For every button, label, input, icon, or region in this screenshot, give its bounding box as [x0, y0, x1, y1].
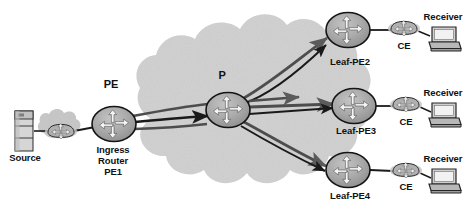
- receiver4-workstation-icon: [429, 169, 461, 193]
- leaf-pe2-router-icon: [326, 13, 370, 48]
- ce4-router-icon: [390, 163, 422, 178]
- receiver3-workstation-icon: [429, 103, 461, 127]
- ce3-router-icon: [390, 97, 422, 112]
- link-leafpe4-to-ce4: [370, 170, 393, 171]
- link-ce4-to-receiver4: [420, 173, 431, 178]
- label-leaf-pe2: Leaf-PE2: [330, 57, 370, 67]
- label-leaf-pe3: Leaf-PE3: [336, 126, 376, 136]
- label-source: Source: [9, 153, 41, 163]
- leaf-pe3-router-icon: [332, 89, 376, 124]
- link-ce2-to-receiver2: [418, 31, 430, 36]
- label-p: P: [218, 70, 225, 82]
- label-receiver3: Receiver: [424, 88, 463, 98]
- source-server-icon: [15, 111, 33, 151]
- ce2-router-icon: [388, 21, 420, 36]
- label-pe: PE: [104, 79, 118, 91]
- label-ingress-router-line2: Router: [98, 156, 128, 166]
- receiver2-workstation-icon: [429, 27, 461, 51]
- network-diagram: Source PE P Ingress Router PE1 Leaf-PE2 …: [0, 0, 472, 212]
- label-receiver4: Receiver: [424, 154, 463, 164]
- leaf-pe4-router-icon: [326, 153, 370, 188]
- link-ce3-to-receiver3: [420, 107, 431, 112]
- label-leaf-pe4: Leaf-PE4: [330, 191, 370, 201]
- label-ce3: CE: [400, 117, 413, 127]
- p-router-icon: [206, 93, 250, 128]
- label-ingress-router-pe1: PE1: [104, 167, 122, 177]
- label-receiver2: Receiver: [424, 12, 463, 22]
- label-ingress-router-line1: Ingress: [96, 145, 129, 155]
- label-ce2: CE: [398, 41, 411, 51]
- label-ce4: CE: [400, 182, 413, 192]
- pe1-router-icon: [92, 107, 136, 142]
